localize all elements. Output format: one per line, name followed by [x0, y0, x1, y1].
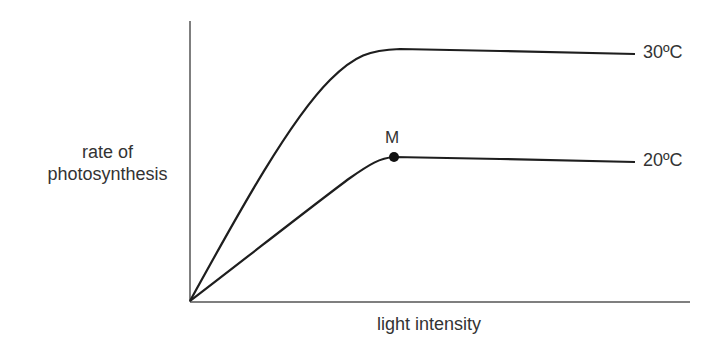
point-m-label: M	[385, 128, 399, 148]
series-label-20c: 20ºC	[643, 150, 683, 171]
x-axis-label: light intensity	[377, 314, 481, 335]
curve-30c	[190, 49, 635, 301]
curve-20c	[190, 157, 635, 301]
y-axis-label: rate of photosynthesis	[40, 141, 175, 185]
series-label-30c: 30ºC	[643, 42, 683, 63]
point-m-marker	[389, 152, 399, 162]
y-axis-label-line2: photosynthesis	[40, 163, 175, 185]
y-axis-label-line1: rate of	[40, 141, 175, 163]
